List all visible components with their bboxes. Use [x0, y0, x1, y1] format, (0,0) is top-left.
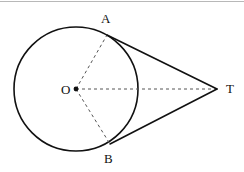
dashed-radius-OB	[76, 89, 110, 144]
point-label-b: B	[104, 152, 113, 165]
center-point-marker	[74, 87, 79, 92]
diagram-canvas	[0, 0, 244, 172]
geometry-figure: A O B T	[0, 0, 244, 172]
point-label-a: A	[101, 12, 110, 25]
tangent-segment-TA	[107, 35, 217, 89]
tangent-segment-TB	[110, 89, 217, 144]
dashed-radius-OA	[76, 35, 107, 89]
point-label-o: O	[61, 83, 70, 96]
point-label-t: T	[226, 82, 234, 95]
